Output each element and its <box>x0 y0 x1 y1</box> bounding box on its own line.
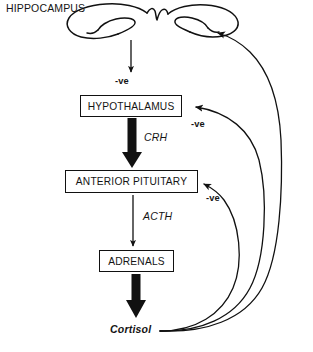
node-hypothalamus: HYPOTHALAMUS <box>80 95 182 117</box>
feedback-curve-to-hypothalamus <box>160 107 264 331</box>
label-negative-feedback-pituitary: -ve <box>206 194 220 203</box>
node-adrenals: ADRENALS <box>99 250 174 272</box>
label-acth: ACTH <box>143 211 172 222</box>
hippocampus-icon <box>67 4 238 39</box>
label-cortisol: Cortisol <box>110 324 151 335</box>
arrow-adrenals-to-cortisol <box>126 274 146 318</box>
hpa-axis-diagram: HIPPOCAMPUS HYPOTHALAMUS ANTERIOR PITUIT… <box>0 0 313 352</box>
node-anterior-pituitary: ANTERIOR PITUITARY <box>65 170 198 193</box>
label-negative-feedback-hippocampus: -ve <box>115 77 129 86</box>
label-negative-feedback-hypothalamus: -ve <box>191 120 205 129</box>
arrow-crh <box>122 118 142 168</box>
page-title: HIPPOCAMPUS <box>6 3 85 14</box>
label-crh: CRH <box>144 132 167 143</box>
